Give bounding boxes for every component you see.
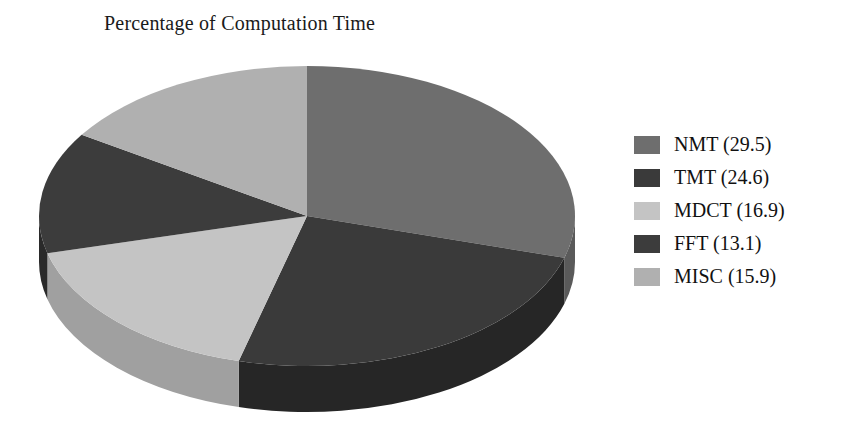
legend-label-mdct: MDCT (16.9) [674, 199, 785, 222]
legend-item[interactable]: NMT (29.5) [634, 128, 849, 161]
pie-chart-canvas [0, 0, 620, 435]
legend-swatch-fft [634, 235, 660, 253]
pie-top-slices [39, 66, 575, 366]
legend-swatch-tmt [634, 169, 660, 187]
legend-swatch-misc [634, 268, 660, 286]
legend-item[interactable]: MDCT (16.9) [634, 194, 849, 227]
legend-label-tmt: TMT (24.6) [674, 166, 769, 189]
legend-item[interactable]: TMT (24.6) [634, 161, 849, 194]
legend-label-misc: MISC (15.9) [674, 265, 776, 288]
legend-label-nmt: NMT (29.5) [674, 133, 771, 156]
legend-swatch-nmt [634, 136, 660, 154]
legend-item[interactable]: FFT (13.1) [634, 227, 849, 260]
legend-label-fft: FFT (13.1) [674, 232, 761, 255]
legend-item[interactable]: MISC (15.9) [634, 260, 849, 293]
legend-swatch-mdct [634, 202, 660, 220]
pie-chart-svg [0, 0, 620, 435]
chart-legend: NMT (29.5) TMT (24.6) MDCT (16.9) FFT (1… [634, 128, 849, 293]
pie-chart-figure: Percentage of Computation Time NMT (29.5… [0, 0, 859, 435]
